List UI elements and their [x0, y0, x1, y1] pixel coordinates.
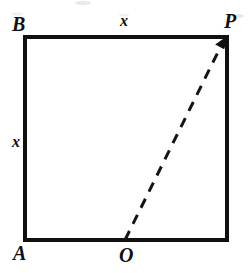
figure-canvas [0, 0, 251, 273]
dashed-line [125, 46, 221, 240]
vertex-label-b: B [12, 14, 25, 34]
scan-speck-top-center [75, 1, 91, 5]
geometry-figure: B P A O x x [0, 0, 251, 273]
square-shape [25, 37, 227, 240]
vertex-label-o: O [119, 245, 133, 265]
side-label-left: x [12, 134, 20, 150]
vertex-label-p: P [224, 11, 236, 31]
side-label-top: x [120, 13, 128, 29]
vertex-label-a: A [13, 243, 26, 263]
square-outline [25, 37, 227, 240]
dashed-segment-o-to-p [125, 37, 227, 240]
